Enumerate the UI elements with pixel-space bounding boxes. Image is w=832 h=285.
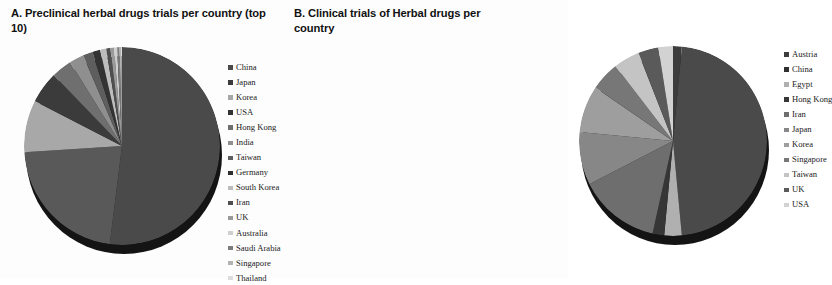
panel-b-title: B. Clinical trials of Herbal drugs per c… — [294, 6, 509, 35]
legend-a: ChinaJapanKoreaUSAHong KongIndiaTaiwanGe… — [228, 60, 281, 285]
legend-swatch-icon — [228, 171, 233, 176]
legend-b-item[interactable]: China — [784, 62, 832, 77]
legend-a-item[interactable]: China — [228, 60, 281, 75]
pie-a-svg — [24, 47, 220, 245]
legend-b-label: USA — [792, 197, 809, 212]
legend-b-label: Korea — [792, 137, 813, 152]
legend-swatch-icon — [228, 261, 233, 266]
legend-b-label: Japan — [792, 122, 812, 137]
legend-b-item[interactable]: Iran — [784, 107, 832, 122]
legend-a-label: Taiwan — [236, 150, 261, 165]
legend-swatch-icon — [784, 67, 789, 72]
legend-a-label: Germany — [236, 165, 268, 180]
legend-b-label: Singapore — [792, 152, 827, 167]
legend-swatch-icon — [784, 173, 789, 178]
legend-a-item[interactable]: Hong Kong — [228, 120, 281, 135]
legend-b-label: Egypt — [792, 77, 813, 92]
legend-b-item[interactable]: Austria — [784, 47, 832, 62]
legend-a-item[interactable]: Singapore — [228, 256, 281, 271]
legend-a-label: USA — [236, 105, 253, 120]
legend-a-label: Korea — [236, 90, 257, 105]
legend-a-label: South Korea — [236, 180, 279, 195]
pie-b-svg — [579, 46, 767, 236]
legend-swatch-icon — [784, 188, 789, 193]
legend-a-label: Australia — [236, 226, 268, 241]
panel-b: B. Clinical trials of Herbal drugs per c… — [284, 0, 568, 279]
legend-swatch-icon — [228, 95, 233, 100]
legend-a-item[interactable]: India — [228, 135, 281, 150]
legend-a-item[interactable]: USA — [228, 105, 281, 120]
legend-b-item[interactable]: Taiwan — [784, 167, 832, 182]
pie-b-slice[interactable] — [673, 46, 767, 235]
legend-a-label: Saudi Arabia — [236, 241, 281, 256]
legend-a-item[interactable]: Korea — [228, 90, 281, 105]
pie-a-slices — [24, 47, 220, 245]
legend-a-label: India — [236, 135, 254, 150]
legend-swatch-icon — [784, 128, 789, 133]
pie-chart-b — [579, 46, 767, 236]
legend-a-item[interactable]: South Korea — [228, 180, 281, 195]
legend-a-item[interactable]: Japan — [228, 75, 281, 90]
legend-a-item[interactable]: UK — [228, 210, 281, 225]
legend-a-item[interactable]: Taiwan — [228, 150, 281, 165]
legend-a-label: UK — [236, 210, 248, 225]
legend-swatch-icon — [228, 231, 233, 236]
legend-swatch-icon — [784, 203, 789, 208]
legend-a-label: China — [236, 60, 257, 75]
pie-a-slice[interactable] — [110, 47, 220, 245]
pie-chart-a — [24, 47, 220, 245]
legend-a-label: Thailand — [236, 271, 267, 285]
legend-b: AustriaChinaEgyptHong KongIranJapanKorea… — [784, 47, 832, 213]
legend-swatch-icon — [784, 158, 789, 163]
legend-b-label: Iran — [792, 107, 806, 122]
legend-swatch-icon — [784, 97, 789, 102]
pie-a-disc — [24, 47, 220, 245]
legend-swatch-icon — [784, 112, 789, 117]
legend-b-item[interactable]: Singapore — [784, 152, 832, 167]
legend-b-item[interactable]: Korea — [784, 137, 832, 152]
legend-swatch-icon — [228, 276, 233, 281]
panel-a: A. Preclinical herbal drugs trials per c… — [0, 0, 284, 279]
legend-a-label: Singapore — [236, 256, 271, 271]
legend-a-item[interactable]: Australia — [228, 226, 281, 241]
legend-b-label: Austria — [792, 47, 817, 62]
pie-a-slice[interactable] — [24, 146, 122, 244]
legend-b-label: China — [792, 62, 813, 77]
legend-b-item[interactable]: Japan — [784, 122, 832, 137]
legend-a-item[interactable]: Germany — [228, 165, 281, 180]
legend-a-label: Iran — [236, 195, 250, 210]
legend-swatch-icon — [228, 201, 233, 206]
legend-swatch-icon — [228, 65, 233, 70]
legend-a-item[interactable]: Thailand — [228, 271, 281, 285]
legend-b-item[interactable]: UK — [784, 182, 832, 197]
legend-swatch-icon — [228, 156, 233, 161]
legend-swatch-icon — [228, 125, 233, 130]
pie-b-disc — [579, 46, 767, 236]
legend-swatch-icon — [784, 52, 789, 57]
legend-swatch-icon — [784, 143, 789, 148]
legend-a-item[interactable]: Iran — [228, 195, 281, 210]
pie-b-slices — [579, 46, 767, 236]
legend-swatch-icon — [228, 246, 233, 251]
legend-b-label: UK — [792, 182, 804, 197]
legend-b-item[interactable]: USA — [784, 197, 832, 212]
legend-swatch-icon — [228, 141, 233, 146]
legend-b-item[interactable]: Hong Kong — [784, 92, 832, 107]
legend-swatch-icon — [228, 216, 233, 221]
legend-b-label: Taiwan — [792, 167, 817, 182]
legend-swatch-icon — [228, 186, 233, 191]
legend-swatch-icon — [784, 82, 789, 87]
legend-b-item[interactable]: Egypt — [784, 77, 832, 92]
legend-b-label: Hong Kong — [792, 92, 832, 107]
legend-swatch-icon — [228, 110, 233, 115]
legend-a-label: Hong Kong — [236, 120, 276, 135]
legend-a-item[interactable]: Saudi Arabia — [228, 241, 281, 256]
legend-a-label: Japan — [236, 75, 256, 90]
panel-a-title: A. Preclinical herbal drugs trials per c… — [11, 6, 273, 35]
legend-swatch-icon — [228, 80, 233, 85]
